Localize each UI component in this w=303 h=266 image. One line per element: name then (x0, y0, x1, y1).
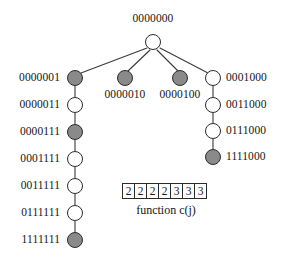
node-0000001-label: 0000001 (0, 71, 60, 83)
node-1111000[interactable] (205, 149, 221, 165)
node-0001000-label: 0001000 (226, 71, 296, 83)
node-0111000[interactable] (205, 123, 221, 139)
node-0001000[interactable] (205, 70, 221, 86)
function-c-table: 2 2 2 2 3 3 3 (122, 183, 207, 199)
node-1111111[interactable] (67, 232, 83, 248)
node-root-label: 0000000 (113, 12, 193, 24)
node-0011000-label: 0011000 (226, 98, 296, 110)
node-0011111-label: 0011111 (0, 179, 60, 191)
node-root[interactable] (145, 34, 161, 50)
edge-root-mid2 (157, 50, 178, 71)
node-0000111[interactable] (67, 124, 83, 140)
function-c-caption: function c(j) (113, 203, 219, 218)
node-1111111-label: 1111111 (0, 233, 60, 245)
node-0111000-label: 0111000 (226, 124, 296, 136)
node-0000010[interactable] (117, 70, 133, 86)
node-0111111-label: 0111111 (0, 206, 60, 218)
node-0000011-label: 0000011 (0, 98, 60, 110)
node-0111111[interactable] (67, 205, 83, 221)
tree-diagram-figure: 0000000 0000010 0000100 0000001 0000011 … (0, 0, 303, 266)
node-0000001[interactable] (67, 70, 83, 86)
node-0011111[interactable] (67, 178, 83, 194)
node-0000111-label: 0000111 (0, 125, 60, 137)
node-0011000[interactable] (205, 97, 221, 113)
node-0000010-label: 0000010 (95, 88, 155, 100)
edge-root-mid1 (128, 50, 150, 71)
edge-root-left (81, 48, 147, 73)
node-0000100-label: 0000100 (150, 88, 210, 100)
node-0001111-label: 0001111 (0, 152, 60, 164)
node-1111000-label: 1111000 (226, 150, 296, 162)
node-0000011[interactable] (67, 97, 83, 113)
node-0001111[interactable] (67, 151, 83, 167)
c-cell-7: 3 (194, 183, 207, 199)
node-0000100[interactable] (172, 70, 188, 86)
